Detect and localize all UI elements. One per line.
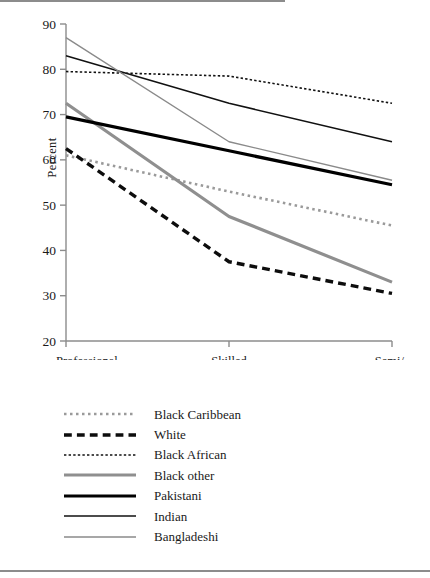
bottom-rule: [0, 570, 430, 572]
series-group: [66, 38, 392, 294]
legend-label: Indian: [154, 510, 187, 523]
series-line: [66, 38, 392, 181]
legend-item[interactable]: Black Caribbean: [0, 404, 430, 424]
legend-label: Pakistani: [154, 489, 202, 502]
y-axis-tick-label: 80: [43, 62, 57, 77]
x-tick-labels-group: ProfessionalSkilledSemi/unskilled: [56, 354, 405, 360]
x-axis-tick-label: Professional: [56, 354, 118, 360]
plot-area: Percent 9080706050403020 ProfessionalSki…: [0, 0, 430, 360]
legend-swatch: [62, 511, 138, 521]
series-line: [66, 72, 392, 104]
x-axis-tick-label: Skilled: [211, 354, 247, 360]
y-axis-tick-label: 50: [43, 198, 57, 213]
legend-swatch: [62, 532, 138, 542]
legend-item[interactable]: Bangladeshi: [0, 526, 430, 546]
legend-item[interactable]: Black other: [0, 465, 430, 485]
legend-item[interactable]: Black African: [0, 445, 430, 465]
legend-label: Bangladeshi: [154, 530, 218, 543]
legend-label: White: [154, 428, 186, 441]
chart-legend: Black CaribbeanWhiteBlack AfricanBlack o…: [0, 404, 430, 547]
legend-label: Black Caribbean: [154, 408, 241, 421]
legend-swatch: [62, 450, 138, 460]
legend-swatch: [62, 470, 138, 480]
series-line: [66, 117, 392, 185]
y-axis-tick-label: 30: [43, 288, 57, 303]
y-axis-tick-label: 60: [43, 152, 57, 167]
legend-label: Black African: [154, 448, 227, 461]
legend-item[interactable]: Indian: [0, 506, 430, 526]
figure-container: Percent 9080706050403020 ProfessionalSki…: [0, 0, 430, 578]
legend-swatch: [62, 409, 138, 419]
series-line: [66, 149, 392, 294]
legend-item[interactable]: Pakistani: [0, 486, 430, 506]
legend-swatch: [62, 430, 138, 440]
legend-label: Black other: [154, 469, 214, 482]
legend-item[interactable]: White: [0, 424, 430, 444]
y-axis-tick-label: 70: [43, 107, 57, 122]
y-axis-tick-label: 90: [43, 17, 57, 32]
y-axis-tick-label: 40: [43, 243, 57, 258]
line-chart: 9080706050403020 ProfessionalSkilledSemi…: [0, 0, 430, 360]
axes-group: 9080706050403020: [43, 17, 393, 349]
legend-swatch: [62, 491, 138, 501]
y-axis-tick-label: 20: [43, 334, 57, 349]
x-axis-tick-label: Semi/: [375, 354, 405, 360]
